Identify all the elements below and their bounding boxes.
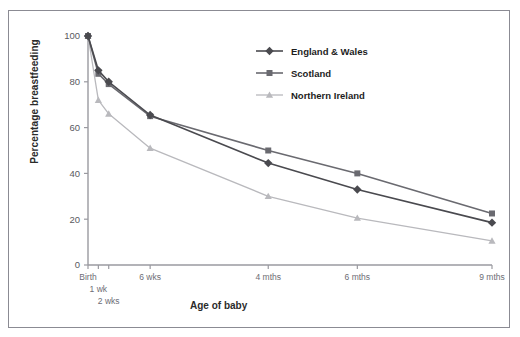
legend-label: Northern Ireland [291, 90, 365, 101]
data-point-triangle [95, 97, 102, 103]
line-chart-svg: 020406080100Birth1 wk2 wks6 wks4 mths6 m… [0, 0, 520, 337]
data-point-square [265, 148, 271, 154]
legend-label: Scotland [291, 68, 331, 79]
data-point-diamond [488, 218, 496, 226]
x-axis-tick-label: 4 mths [255, 272, 281, 282]
series-northern-ireland [84, 32, 495, 243]
data-series-group [84, 32, 496, 244]
y-axis-tick-label: 40 [69, 168, 80, 179]
y-axis-tick-label: 80 [69, 76, 80, 87]
legend-item-england-wales: England & Wales [256, 46, 368, 57]
chart-plot-area: 020406080100Birth1 wk2 wks6 wks4 mths6 m… [0, 0, 520, 337]
data-point-square [354, 170, 360, 176]
x-axis-tick-label: 6 wks [139, 272, 161, 282]
series-scotland [85, 33, 495, 216]
x-axis-tick-label: 1 wk [90, 284, 108, 294]
data-point-diamond [264, 159, 272, 167]
x-axis-tick-label: 2 wks [98, 296, 120, 306]
x-axis-tick-label: 9 mths [479, 272, 505, 282]
series-england-wales [84, 32, 496, 227]
y-axis-title: Percentage breastfeeding [29, 22, 40, 182]
data-point-diamond [353, 185, 361, 193]
y-axis-tick-label: 60 [69, 122, 80, 133]
x-axis-title: Age of baby [190, 300, 247, 311]
legend-item-northern-ireland: Northern Ireland [256, 90, 365, 101]
legend-item-scotland: Scotland [256, 68, 331, 79]
data-point-square [267, 70, 273, 76]
y-axis-tick-label: 20 [69, 214, 80, 225]
data-point-diamond [265, 47, 273, 55]
series-line [88, 36, 492, 241]
y-axis-tick-label: 100 [64, 30, 80, 41]
y-axis-tick-label: 0 [75, 259, 80, 270]
data-point-square [489, 210, 495, 216]
chart-page: 020406080100Birth1 wk2 wks6 wks4 mths6 m… [0, 0, 520, 337]
x-axis-tick-label: Birth [79, 272, 97, 282]
series-line [88, 36, 492, 213]
x-axis-tick-label: 6 mths [345, 272, 371, 282]
legend-label: England & Wales [291, 46, 368, 57]
chart-legend: England & WalesScotlandNorthern Ireland [256, 46, 368, 101]
